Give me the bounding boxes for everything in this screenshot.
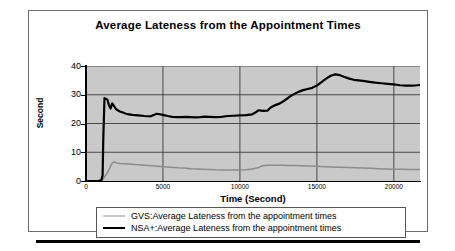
legend-label-gvs: GVS:Average Lateness from the appointmen… (131, 211, 336, 222)
legend-item-nsa: NSA+:Average Lateness from the appointme… (101, 222, 401, 234)
chart-legend: GVS:Average Lateness from the appointmen… (96, 207, 406, 238)
x-tick-label: 0 (84, 183, 88, 190)
legend-label-nsa: NSA+:Average Lateness from the appointme… (131, 223, 341, 234)
x-tick-label: 5000 (156, 183, 170, 190)
x-tick-label: 10000 (231, 183, 249, 190)
x-tick-label: 15000 (308, 183, 326, 190)
x-tick-label: 20000 (385, 183, 403, 190)
bottom-horizontal-rule (36, 240, 420, 243)
chart-frame: Average Lateness from the Appointment Ti… (28, 10, 428, 232)
legend-swatch-nsa-icon (101, 224, 127, 232)
legend-swatch-gvs-icon (101, 212, 127, 220)
x-axis-title: Time (Second) (86, 193, 420, 204)
legend-item-gvs: GVS:Average Lateness from the appointmen… (101, 210, 401, 222)
y-axis-title: Second (35, 98, 45, 129)
